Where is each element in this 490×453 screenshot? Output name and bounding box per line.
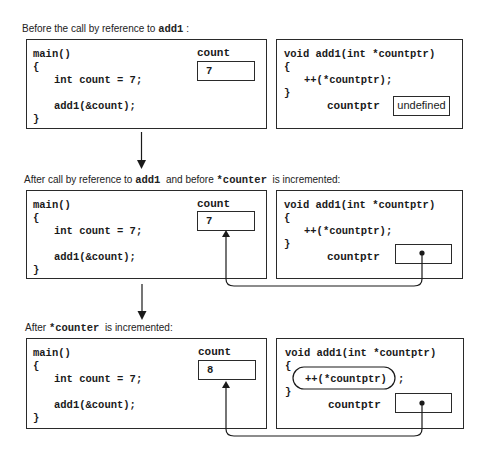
code-add1-signature: void add1(int *countptr) — [285, 347, 436, 359]
code-add1-signature: void add1(int *countptr) — [284, 199, 435, 211]
stage2-add1-panel: void add1(int *countptr) { ++(*countptr)… — [276, 190, 463, 279]
stage2-main-panel: main() { int count = 7; add1(&count); } … — [26, 190, 267, 279]
stage3-add1-panel: void add1(int *countptr) { ++(*countptr)… — [276, 338, 464, 429]
count-label: count — [197, 198, 230, 210]
stage3-main-panel: main() { int count = 7; add1(&count); } … — [26, 338, 267, 429]
code-declaration: int count = 7; — [54, 74, 142, 86]
count-box: 8 — [198, 360, 256, 380]
code-main-signature: main() — [33, 199, 71, 211]
code-call-add1: add1(&count); — [54, 399, 136, 411]
stage3-caption: After *counter is incremented: — [25, 322, 173, 334]
caption-text: Before the call by reference to — [22, 23, 158, 34]
code-close-brace: } — [284, 87, 290, 99]
countptr-box: undefined — [393, 96, 450, 116]
stage-transition-arrow-2 — [138, 284, 147, 320]
stage1-main-panel: main() { int count = 7; add1(&count); } … — [26, 39, 267, 129]
caption-code-counter: *counter — [217, 174, 267, 186]
code-close-brace: } — [284, 238, 290, 250]
code-increment: ++(*countptr); — [304, 74, 392, 86]
code-main-signature: main() — [33, 347, 71, 359]
stage2-caption: After call by reference to add1 and befo… — [24, 174, 340, 186]
countptr-label: countptr — [327, 100, 380, 112]
caption-text: is incremented: — [99, 322, 172, 333]
code-open-brace: { — [33, 360, 39, 372]
code-close-brace: } — [33, 264, 39, 276]
caption-code-counter: *counter — [49, 322, 99, 334]
countptr-label: countptr — [328, 399, 381, 411]
caption-text: is incremented: — [267, 174, 340, 185]
caption-code-add1: add1 — [158, 23, 183, 35]
countptr-box — [395, 393, 452, 413]
code-close-brace: } — [285, 386, 291, 398]
count-box: 7 — [197, 211, 255, 231]
code-open-brace: { — [284, 212, 290, 224]
code-declaration: int count = 7; — [54, 225, 142, 237]
count-value: 7 — [206, 65, 212, 77]
code-call-add1: add1(&count); — [54, 100, 136, 112]
caption-text: After — [25, 322, 49, 333]
stage1-add1-panel: void add1(int *countptr) { ++(*countptr)… — [276, 39, 463, 129]
caption-code-add1: add1 — [135, 174, 160, 186]
countptr-label: countptr — [327, 251, 380, 263]
count-label: count — [198, 346, 231, 358]
code-open-brace: { — [33, 212, 39, 224]
code-semicolon: ; — [398, 373, 404, 385]
code-open-brace: { — [33, 61, 39, 73]
code-increment-highlighted: ++(*countptr) — [305, 373, 387, 385]
code-open-brace: { — [285, 360, 291, 372]
countptr-box — [395, 244, 452, 264]
code-declaration: int count = 7; — [54, 373, 142, 385]
code-close-brace: } — [33, 412, 39, 424]
code-close-brace: } — [33, 113, 39, 125]
stage-transition-arrow-1 — [137, 132, 146, 169]
stage1-caption: Before the call by reference to add1 : — [22, 23, 189, 35]
count-value: 7 — [206, 215, 212, 227]
code-call-add1: add1(&count); — [54, 251, 136, 263]
code-open-brace: { — [284, 61, 290, 73]
code-main-signature: main() — [33, 48, 71, 60]
caption-text: and before — [160, 174, 216, 185]
count-box: 7 — [197, 61, 255, 81]
caption-text: After call by reference to — [24, 174, 135, 185]
caption-text: : — [183, 23, 189, 34]
count-value: 8 — [207, 364, 213, 376]
code-add1-signature: void add1(int *countptr) — [284, 48, 435, 60]
count-label: count — [197, 47, 230, 59]
code-increment: ++(*countptr); — [304, 225, 392, 237]
countptr-value-undefined: undefined — [394, 99, 449, 111]
